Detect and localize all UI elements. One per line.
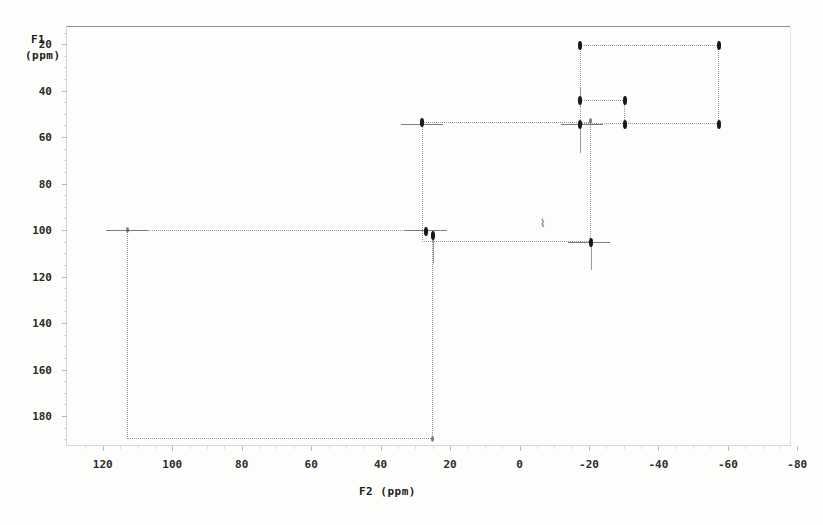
f2-minor-tickmark — [190, 446, 191, 449]
f2-minor-tickmark — [485, 446, 486, 449]
peak-trace-vertical — [591, 246, 592, 269]
f1-tickmark — [62, 137, 67, 138]
f2-minor-tickmark — [606, 446, 607, 449]
plot-frame-right — [790, 26, 791, 446]
f2-minor-tickmark — [138, 446, 139, 449]
f1-tick-label: 180 — [22, 410, 52, 423]
f2-minor-tickmark — [745, 446, 746, 449]
f2-tickmark — [172, 446, 173, 451]
f2-minor-tickmark — [120, 446, 121, 449]
f1-tickmark — [62, 277, 67, 278]
cross-peak — [589, 238, 593, 247]
f2-tickmark — [520, 446, 521, 451]
correlation-box — [580, 100, 625, 124]
f1-minor-tickmark — [64, 358, 67, 359]
plot-frame-left — [66, 26, 67, 446]
f2-minor-tickmark — [641, 446, 642, 449]
f2-minor-tickmark — [624, 446, 625, 449]
f1-tickmark — [62, 184, 67, 185]
correlation-box — [422, 122, 590, 242]
f1-minor-tickmark — [64, 428, 67, 429]
f2-tickmark — [381, 446, 382, 451]
f1-tick-label: 60 — [22, 131, 52, 144]
f2-tick-label: 0 — [500, 458, 540, 471]
f1-minor-tickmark — [64, 311, 67, 312]
f1-minor-tickmark — [64, 56, 67, 57]
cross-peak — [126, 227, 129, 233]
f2-minor-tickmark — [329, 446, 330, 449]
f2-minor-tickmark — [502, 446, 503, 449]
f1-minor-tickmark — [64, 218, 67, 219]
f1-minor-tickmark — [64, 288, 67, 289]
f2-minor-tickmark — [398, 446, 399, 449]
cross-peak — [717, 120, 721, 129]
f2-tickmark — [311, 446, 312, 451]
f2-minor-tickmark — [415, 446, 416, 449]
scan-artifact-mark: ⌇ — [540, 218, 550, 230]
f2-tickmark — [658, 446, 659, 451]
f1-minor-tickmark — [64, 79, 67, 80]
cross-peak — [717, 41, 721, 50]
f1-tick-label: 80 — [22, 178, 52, 191]
f2-tick-label: -40 — [638, 458, 678, 471]
f1-minor-tickmark — [64, 439, 67, 440]
peak-trace-vertical — [580, 129, 581, 153]
f2-minor-tickmark — [294, 446, 295, 449]
f1-minor-tickmark — [64, 149, 67, 150]
f2-minor-tickmark — [763, 446, 764, 449]
f1-minor-tickmark — [64, 242, 67, 243]
f1-minor-tickmark — [64, 253, 67, 254]
f1-minor-tickmark — [64, 172, 67, 173]
f2-tickmark — [728, 446, 729, 451]
f2-tick-label: 20 — [430, 458, 470, 471]
f1-tick-label: 20 — [22, 38, 52, 51]
f1-minor-tickmark — [64, 300, 67, 301]
f1-tickmark — [62, 230, 67, 231]
plot-frame-top — [66, 26, 791, 27]
f2-tick-label: 100 — [152, 458, 192, 471]
f1-tickmark — [62, 416, 67, 417]
f2-tickmark — [450, 446, 451, 451]
f1-minor-tickmark — [64, 346, 67, 347]
f2-tick-label: 120 — [83, 458, 123, 471]
f2-minor-tickmark — [554, 446, 555, 449]
f1-tick-label: 140 — [22, 317, 52, 330]
f2-tickmark — [242, 446, 243, 451]
f1-tickmark — [62, 323, 67, 324]
f1-tick-label: 160 — [22, 364, 52, 377]
f2-minor-tickmark — [693, 446, 694, 449]
f1-minor-tickmark — [64, 335, 67, 336]
f2-minor-tickmark — [346, 446, 347, 449]
f2-minor-tickmark — [710, 446, 711, 449]
f2-axis-title: F2 (ppm) — [359, 485, 416, 498]
f2-tickmark — [797, 446, 798, 451]
f2-minor-tickmark — [155, 446, 156, 449]
f1-tick-label: 40 — [22, 85, 52, 98]
f1-minor-tickmark — [64, 114, 67, 115]
f1-minor-tickmark — [64, 125, 67, 126]
f1-tick-label: 100 — [22, 224, 52, 237]
f1-minor-tickmark — [64, 33, 67, 34]
f2-minor-tickmark — [224, 446, 225, 449]
f2-tick-label: -20 — [569, 458, 609, 471]
f2-minor-tickmark — [780, 446, 781, 449]
f1-minor-tickmark — [64, 102, 67, 103]
f2-minor-tickmark — [276, 446, 277, 449]
cross-peak — [623, 120, 627, 129]
f1-minor-tickmark — [64, 195, 67, 196]
f2-tick-label: -60 — [708, 458, 748, 471]
f2-minor-tickmark — [537, 446, 538, 449]
f2-tick-label: -80 — [777, 458, 817, 471]
f1-tick-label: 120 — [22, 271, 52, 284]
f1-minor-tickmark — [64, 265, 67, 266]
f2-minor-tickmark — [363, 446, 364, 449]
nmr-spectrum-figure: F1 (ppm) F2 (ppm) 2040608010012014016018… — [0, 0, 823, 525]
f1-tickmark — [62, 370, 67, 371]
f1-minor-tickmark — [64, 207, 67, 208]
cross-peak — [424, 227, 428, 236]
f1-minor-tickmark — [64, 67, 67, 68]
f2-tickmark — [103, 446, 104, 451]
f2-minor-tickmark — [207, 446, 208, 449]
f1-minor-tickmark — [64, 160, 67, 161]
f2-tick-label: 80 — [222, 458, 262, 471]
